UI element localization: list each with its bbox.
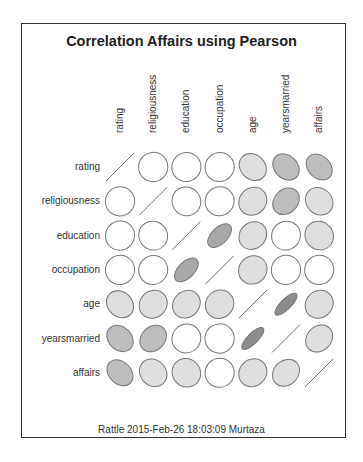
- cell-rating-education: [166, 146, 207, 187]
- cell-education-age: [233, 216, 272, 255]
- cell-yearsmarried-age: [239, 324, 267, 352]
- cell-occupation-affairs: [299, 249, 340, 290]
- cell-religiousness-religiousness: [139, 187, 167, 215]
- cell-affairs-rating: [102, 355, 138, 391]
- cell-age-yearsmarried: [272, 290, 300, 318]
- cell-affairs-affairs: [305, 359, 333, 387]
- cell-education-yearsmarried: [266, 215, 307, 256]
- cell-rating-religiousness: [133, 146, 174, 187]
- cell-religiousness-yearsmarried: [267, 183, 304, 220]
- cell-yearsmarried-yearsmarried: [272, 325, 300, 353]
- cell-yearsmarried-education: [166, 318, 207, 359]
- cell-occupation-age: [233, 250, 273, 290]
- cell-religiousness-rating: [99, 181, 140, 222]
- cell-affairs-occupation: [199, 352, 240, 393]
- cell-religiousness-education: [166, 181, 207, 222]
- cell-yearsmarried-rating: [101, 320, 138, 357]
- cell-occupation-religiousness: [133, 249, 174, 290]
- cell-religiousness-occupation: [199, 181, 240, 222]
- cell-affairs-yearsmarried: [267, 354, 305, 392]
- cell-age-age: [239, 290, 267, 318]
- cell-religiousness-affairs: [300, 182, 339, 221]
- cell-occupation-education: [170, 254, 202, 286]
- cell-age-education: [167, 285, 206, 324]
- cell-occupation-yearsmarried: [265, 249, 306, 290]
- cell-education-education: [172, 222, 200, 250]
- cell-education-religiousness: [133, 215, 174, 256]
- cell-age-rating: [101, 285, 139, 323]
- cell-rating-rating: [106, 153, 134, 181]
- cell-rating-affairs: [301, 149, 337, 185]
- cell-affairs-religiousness: [134, 353, 173, 392]
- cell-yearsmarried-religiousness: [134, 320, 171, 357]
- cell-education-rating: [99, 215, 140, 256]
- footer-caption: Rattle 2015-Feb-26 18:03:09 Murtaza: [0, 424, 363, 435]
- cell-occupation-rating: [99, 249, 140, 290]
- cell-age-affairs: [299, 284, 339, 324]
- cell-education-occupation: [203, 219, 235, 251]
- cell-age-religiousness: [133, 284, 173, 324]
- cell-yearsmarried-occupation: [199, 318, 240, 359]
- cell-occupation-occupation: [206, 256, 234, 284]
- cell-affairs-education: [166, 353, 206, 393]
- cell-religiousness-age: [233, 182, 273, 222]
- cell-affairs-age: [233, 353, 273, 393]
- cell-rating-yearsmarried: [267, 148, 304, 185]
- cell-age-occupation: [200, 284, 240, 324]
- cell-yearsmarried-affairs: [300, 320, 338, 358]
- cell-rating-occupation: [199, 146, 240, 187]
- correlation-ellipse-grid: [0, 0, 363, 462]
- cell-rating-age: [234, 148, 272, 186]
- cell-education-affairs: [299, 215, 339, 255]
